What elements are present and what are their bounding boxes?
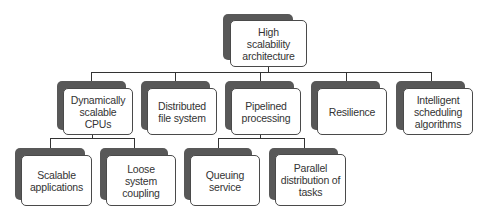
- connector: [175, 72, 176, 81]
- node-box: Pipelined processing: [231, 88, 301, 135]
- node-box: Intelligent scheduling algorithms: [403, 88, 473, 135]
- node-box: High scalability architecture: [230, 20, 307, 67]
- node-label: Loose system coupling: [110, 163, 172, 199]
- connector: [218, 138, 305, 139]
- connector: [91, 72, 432, 73]
- node-label: Pipelined processing: [235, 100, 297, 124]
- connector: [134, 138, 135, 148]
- node-label: Resilience: [329, 106, 375, 118]
- node-label: High scalability architecture: [242, 26, 294, 62]
- connector: [346, 72, 347, 81]
- node-box: Distributed file system: [147, 88, 217, 135]
- connector: [91, 72, 92, 81]
- connector: [431, 72, 432, 81]
- node-label: Distributed file system: [151, 100, 213, 124]
- node-label: Parallel distribution of tasks: [279, 162, 342, 198]
- node-label: Scalable applications: [25, 169, 88, 193]
- node-box: Scalable applications: [21, 155, 92, 206]
- node-label: Intelligent scheduling algorithms: [407, 94, 469, 130]
- connector: [304, 138, 305, 148]
- node-box: Queuing service: [190, 155, 260, 206]
- node-box: Parallel distribution of tasks: [275, 154, 346, 206]
- connector: [218, 138, 219, 148]
- connector: [260, 72, 261, 81]
- node-label: Queuing service: [194, 169, 256, 193]
- connector: [50, 138, 135, 139]
- node-box: Dynamically scalable CPUs: [63, 88, 133, 135]
- architecture-diagram: High scalability architecture Dynamicall…: [0, 0, 487, 214]
- node-box: Resilience: [317, 88, 387, 135]
- connector: [50, 138, 51, 148]
- node-box: Loose system coupling: [106, 155, 176, 206]
- node-label: Dynamically scalable CPUs: [67, 94, 129, 130]
